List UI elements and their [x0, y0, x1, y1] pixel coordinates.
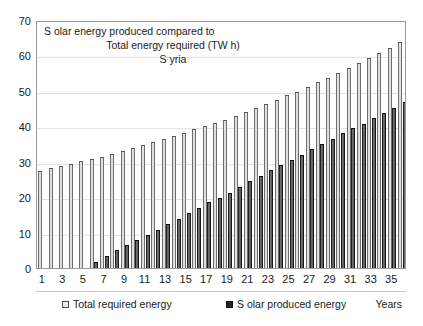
x-axis-tick-label: 17 — [200, 272, 212, 286]
bar-total-required-energy[interactable] — [131, 148, 135, 268]
bar-group — [69, 22, 79, 268]
bar-solar-produced-energy[interactable] — [362, 124, 366, 268]
legend-swatch-icon-total-required — [62, 301, 69, 308]
bar-group — [388, 22, 398, 268]
bar-solar-produced-energy[interactable] — [341, 133, 345, 268]
bar-total-required-energy[interactable] — [326, 78, 330, 268]
bar-group — [285, 22, 295, 268]
bar-group — [264, 22, 274, 268]
bar-solar-produced-energy[interactable] — [248, 181, 252, 268]
bar-solar-produced-energy[interactable] — [351, 128, 355, 268]
plot-area — [36, 21, 406, 269]
bar-solar-produced-energy[interactable] — [115, 250, 119, 268]
bar-total-required-energy[interactable] — [90, 159, 94, 268]
bar-total-required-energy[interactable] — [172, 136, 176, 269]
bar-solar-produced-energy[interactable] — [197, 208, 201, 268]
bar-group — [131, 22, 141, 268]
bar-total-required-energy[interactable] — [182, 133, 186, 268]
bar-solar-produced-energy[interactable] — [392, 108, 396, 268]
bar-solar-produced-energy[interactable] — [177, 219, 181, 268]
x-axis-tick-label: 15 — [180, 272, 192, 286]
x-axis-tick-label: 31 — [344, 272, 356, 286]
bar-total-required-energy[interactable] — [38, 171, 42, 268]
bar-solar-produced-energy[interactable] — [166, 224, 170, 268]
x-axis-tick-label: 35 — [385, 272, 397, 286]
bar-total-required-energy[interactable] — [316, 82, 320, 268]
x-axis-tick-label: 29 — [323, 272, 335, 286]
legend-item-solar-produced-energy[interactable]: S olar produced energy — [226, 298, 346, 310]
bar-total-required-energy[interactable] — [254, 108, 258, 268]
bar-total-required-energy[interactable] — [79, 161, 83, 268]
bar-total-required-energy[interactable] — [100, 157, 104, 268]
bar-total-required-energy[interactable] — [110, 154, 114, 268]
bar-total-required-energy[interactable] — [244, 112, 248, 268]
y-axis-tick-label: 60 — [0, 51, 31, 62]
bar-total-required-energy[interactable] — [213, 123, 217, 268]
bar-solar-produced-energy[interactable] — [331, 139, 335, 268]
bar-solar-produced-energy[interactable] — [300, 155, 304, 268]
y-axis-tick-label: 10 — [0, 228, 31, 239]
bar-total-required-energy[interactable] — [295, 92, 299, 268]
bar-solar-produced-energy[interactable] — [218, 198, 222, 269]
bar-solar-produced-energy[interactable] — [279, 165, 283, 268]
bar-group — [162, 22, 172, 268]
bar-group — [377, 22, 387, 268]
bar-solar-produced-energy[interactable] — [105, 256, 109, 268]
bar-total-required-energy[interactable] — [347, 68, 351, 268]
bar-total-required-energy[interactable] — [151, 142, 155, 268]
bar-total-required-energy[interactable] — [357, 63, 361, 268]
bar-total-required-energy[interactable] — [141, 145, 145, 268]
bar-solar-produced-energy[interactable] — [320, 144, 324, 268]
bar-solar-produced-energy[interactable] — [156, 230, 160, 268]
x-axis-tick-label: 25 — [282, 272, 294, 286]
bar-group — [398, 22, 406, 268]
bar-total-required-energy[interactable] — [234, 116, 238, 268]
bar-solar-produced-energy[interactable] — [403, 102, 406, 268]
bar-solar-produced-energy[interactable] — [187, 213, 191, 268]
bar-solar-produced-energy[interactable] — [207, 202, 211, 268]
bar-solar-produced-energy[interactable] — [382, 113, 386, 268]
bar-solar-produced-energy[interactable] — [290, 160, 294, 268]
bar-total-required-energy[interactable] — [162, 139, 166, 268]
bar-total-required-energy[interactable] — [49, 168, 53, 268]
bar-total-required-energy[interactable] — [121, 151, 125, 268]
bar-solar-produced-energy[interactable] — [135, 240, 139, 268]
bar-total-required-energy[interactable] — [264, 104, 268, 268]
bar-solar-produced-energy[interactable] — [372, 118, 376, 268]
bar-group — [223, 22, 233, 268]
bar-solar-produced-energy[interactable] — [125, 245, 129, 268]
bar-total-required-energy[interactable] — [336, 73, 340, 268]
bar-group — [213, 22, 223, 268]
bar-total-required-energy[interactable] — [203, 126, 207, 268]
x-axis-tick-label: 3 — [59, 272, 65, 286]
bar-total-required-energy[interactable] — [306, 87, 310, 268]
bar-total-required-energy[interactable] — [59, 166, 63, 268]
bar-total-required-energy[interactable] — [377, 53, 381, 268]
x-axis-tick-label: 5 — [80, 272, 86, 286]
bar-group — [151, 22, 161, 268]
bar-solar-produced-energy[interactable] — [269, 170, 273, 268]
bar-total-required-energy[interactable] — [367, 58, 371, 268]
bar-solar-produced-energy[interactable] — [94, 262, 98, 268]
bar-solar-produced-energy[interactable] — [228, 193, 232, 268]
bar-group — [110, 22, 120, 268]
x-axis-tick-label: 23 — [262, 272, 274, 286]
bars-layer — [37, 22, 405, 268]
x-axis-tick-label: 19 — [221, 272, 233, 286]
x-axis: 1357911131517192123252729313335 — [36, 272, 406, 288]
bar-solar-produced-energy[interactable] — [310, 149, 314, 268]
bar-total-required-energy[interactable] — [275, 100, 279, 268]
bar-total-required-energy[interactable] — [223, 120, 227, 268]
bar-solar-produced-energy[interactable] — [259, 176, 263, 268]
bar-total-required-energy[interactable] — [285, 95, 289, 268]
legend-item-total-required-energy[interactable]: Total required energy — [62, 298, 172, 310]
bar-solar-produced-energy[interactable] — [146, 235, 150, 268]
bar-total-required-energy[interactable] — [192, 129, 196, 268]
y-axis-tick-label: 20 — [0, 193, 31, 204]
bar-total-required-energy[interactable] — [398, 42, 402, 268]
bar-total-required-energy[interactable] — [69, 164, 73, 268]
bar-group — [347, 22, 357, 268]
bar-solar-produced-energy[interactable] — [238, 187, 242, 268]
y-axis-tick-label: 40 — [0, 122, 31, 133]
bar-total-required-energy[interactable] — [388, 48, 392, 268]
